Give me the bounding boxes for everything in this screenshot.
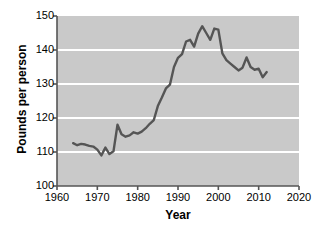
x-tick-label: 2020: [278, 191, 320, 203]
x-tick-label: 1970: [76, 191, 118, 203]
x-tick-label: 1980: [117, 191, 159, 203]
x-tick-label: 2000: [197, 191, 239, 203]
x-tick-label: 2010: [238, 191, 280, 203]
axis-ticks-group: [53, 16, 299, 190]
y-axis-title: Pounds per person: [15, 14, 29, 184]
data-series-line: [73, 26, 267, 155]
x-tick-label: 1990: [157, 191, 199, 203]
x-tick-label: 1960: [36, 191, 78, 203]
axis-lines-group: [57, 16, 299, 186]
gridlines-group: [57, 50, 299, 152]
chart-container: 100110120130140150 196019701980199020002…: [0, 0, 325, 229]
x-axis-title: Year: [57, 208, 299, 222]
